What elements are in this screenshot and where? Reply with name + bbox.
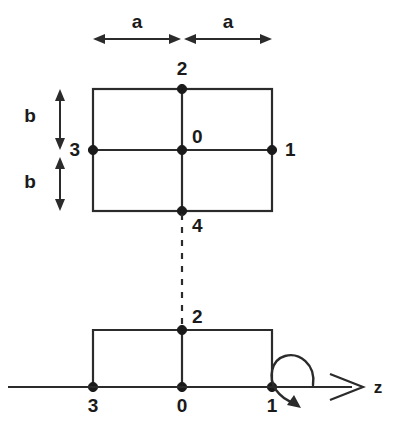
elevation-node-label-3: 3 <box>88 395 99 416</box>
elevation-node-2 <box>177 325 186 334</box>
dimension-arrow-b-lower <box>55 157 65 211</box>
dimension-label-b-lower: b <box>24 171 36 192</box>
dimension-group-horizontal: a a <box>93 11 272 44</box>
elevation-node-label-2: 2 <box>192 306 203 327</box>
cross-section-node-1 <box>267 145 276 154</box>
elevation-node-label-1: 1 <box>267 395 278 416</box>
elevation-node-label-0: 0 <box>177 395 188 416</box>
engineering-diagram: a a b b <box>0 0 407 434</box>
z-axis-label: z <box>374 378 383 397</box>
cross-section-node-label-3: 3 <box>69 139 80 160</box>
cross-section-view: 2 0 1 3 4 <box>69 58 296 236</box>
cross-section-node-label-4: 4 <box>192 215 203 236</box>
dimension-label-a-right: a <box>223 11 234 32</box>
dimension-arrow-b-upper <box>55 89 65 150</box>
dimension-arrow-a-left <box>93 34 181 44</box>
cross-section-node-label-2: 2 <box>177 58 188 79</box>
z-axis-group: z <box>8 355 382 408</box>
diagram-root: a a b b <box>0 0 407 434</box>
dimension-arrow-a-right <box>184 34 272 44</box>
cross-section-node-0 <box>177 145 186 154</box>
cross-section-node-label-1: 1 <box>285 139 296 160</box>
dimension-label-a-left: a <box>132 11 143 32</box>
rotation-arc <box>272 355 314 403</box>
cross-section-node-label-0: 0 <box>192 126 203 147</box>
dimension-label-b-upper: b <box>24 105 36 126</box>
dimension-group-vertical: b b <box>24 89 65 211</box>
cross-section-node-3 <box>88 145 97 154</box>
cross-section-node-2 <box>177 84 186 93</box>
